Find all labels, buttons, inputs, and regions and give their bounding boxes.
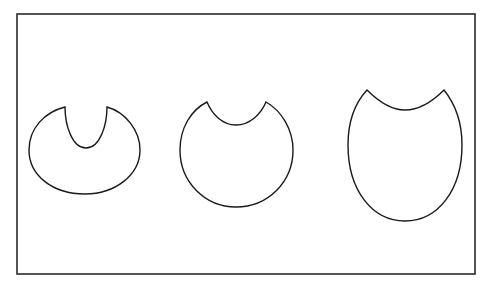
shape-circle-arc-notch <box>180 102 293 207</box>
diagram-canvas <box>0 0 486 285</box>
shape-wide-oval-u-notch <box>29 107 140 194</box>
shape-tall-oval-arc-notch <box>348 90 462 221</box>
diagram-frame <box>17 14 475 274</box>
